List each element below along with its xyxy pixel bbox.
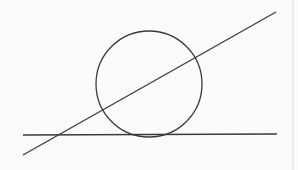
geometry-diagram bbox=[0, 0, 298, 170]
